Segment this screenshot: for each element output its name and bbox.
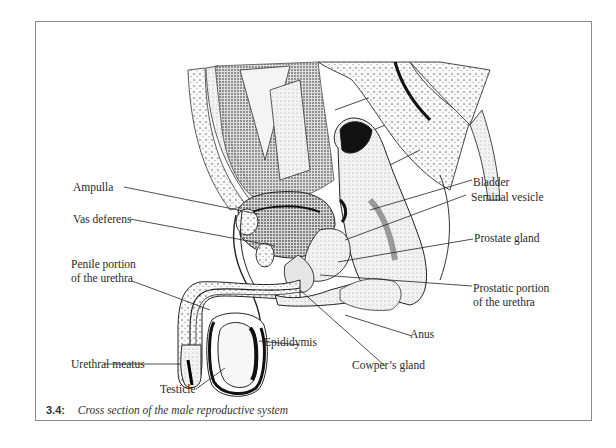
label-anus: Anus xyxy=(410,327,434,341)
label-prostatic-urethra-line1: Prostatic portion xyxy=(473,281,549,295)
label-prostatic-urethra: Prostatic portion of the urethra xyxy=(473,281,549,309)
testicle-organ xyxy=(207,313,268,396)
perineum xyxy=(340,279,401,311)
intestinal-cavity xyxy=(215,62,334,205)
figure-number: 3.4: xyxy=(46,404,65,416)
label-prostatic-urethra-line2: of the urethra xyxy=(473,295,549,309)
figure-caption: 3.4: Cross section of the male reproduct… xyxy=(46,404,288,416)
label-cowpers-gland: Cowper’s gland xyxy=(352,358,425,372)
label-bladder: Bladder xyxy=(473,175,509,189)
label-seminal-vesicle: Seminal vesicle xyxy=(471,190,544,204)
label-vas-deferens: Vas deferens xyxy=(73,212,131,226)
label-penile-urethra-line1: Penile portion xyxy=(71,257,136,271)
label-ampulla: Ampulla xyxy=(73,180,113,194)
label-epididymis: Epididymis xyxy=(264,335,317,349)
figure-caption-text: Cross section of the male reproductive s… xyxy=(78,404,288,416)
label-testicle: Testicle xyxy=(160,382,196,396)
label-urethral-meatus: Urethral meatus xyxy=(71,357,145,371)
label-prostate-gland: Prostate gland xyxy=(474,231,539,245)
label-penile-urethra-line2: of the urethra xyxy=(71,271,136,285)
label-penile-urethra: Penile portion of the urethra xyxy=(71,257,136,285)
